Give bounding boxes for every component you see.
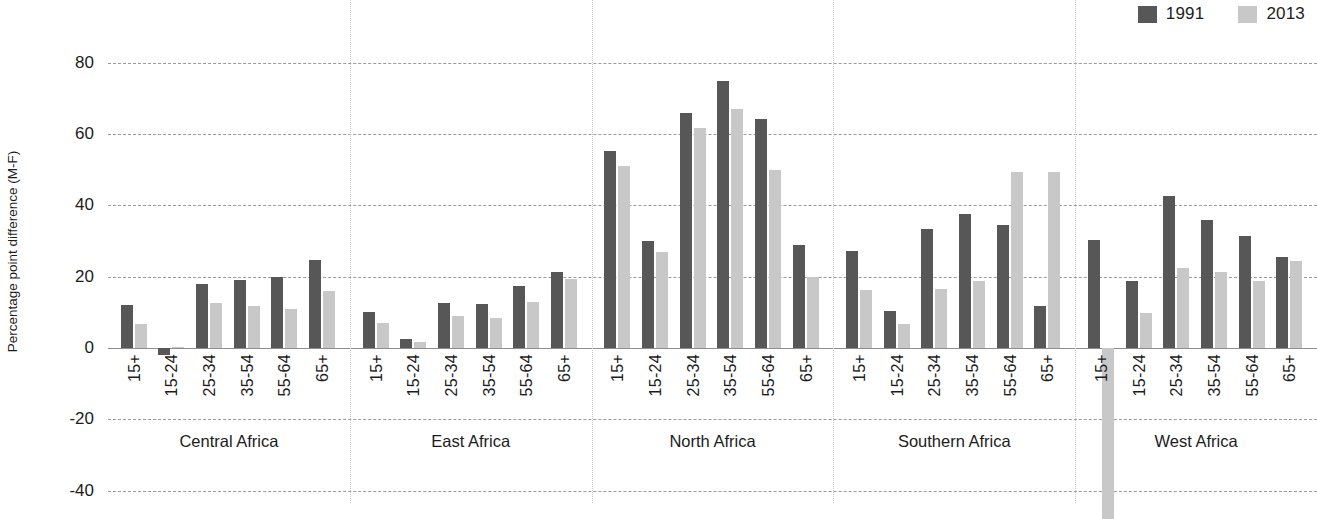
bar-category-25-34: 25-34 [433, 0, 471, 503]
bar-1991-15+ [121, 305, 133, 348]
y-tick-label: 40 [75, 195, 94, 215]
bar-1991-35-54 [1201, 220, 1213, 348]
bar-pair [603, 0, 633, 503]
bar-2013-65+ [1290, 261, 1302, 348]
bar-2013-55-64 [285, 309, 297, 348]
bar-2013-35-54 [1215, 272, 1227, 348]
x-tick-label: 25-34 [201, 354, 219, 396]
x-tick-label: 55-64 [760, 354, 778, 396]
bar-2013-25-34 [452, 316, 464, 348]
y-tick-label: 0 [85, 338, 94, 358]
bar-2013-15-24 [414, 342, 426, 348]
bar-group-central-africa: 15+15-2425-3435-5455-6465+Central Africa [108, 0, 350, 503]
x-tick-label: 15+ [851, 354, 869, 382]
bar-pair [437, 0, 467, 503]
bar-pair [308, 0, 338, 503]
bar-pair [1087, 0, 1117, 503]
bar-pair [195, 0, 225, 503]
bar-2013-55-64 [527, 302, 539, 348]
x-tick-label: 35-54 [964, 354, 982, 396]
bar-1991-65+ [551, 272, 563, 348]
bar-category-15-24: 15-24 [637, 0, 675, 503]
bar-category-15-24: 15-24 [1121, 0, 1159, 503]
bar-1991-15-24 [884, 311, 896, 348]
bar-1991-25-34 [196, 284, 208, 348]
x-tick-label: 65+ [1039, 354, 1057, 382]
x-tick-label: 15+ [609, 354, 627, 382]
bar-1991-15+ [604, 151, 616, 348]
bar-category-15+: 15+ [1083, 0, 1121, 503]
bar-2013-25-34 [210, 303, 222, 348]
bar-1991-15+ [1088, 240, 1100, 348]
y-axis-title-label: Percentage point difference (M-F) [6, 151, 21, 353]
bar-2013-65+ [807, 277, 819, 348]
bar-1991-35-54 [717, 81, 729, 348]
x-tick-label: 35-54 [239, 354, 257, 396]
category-track: 15+15-2425-3435-5455-6465+ [1075, 0, 1317, 503]
bar-pair [920, 0, 950, 503]
x-tick-label: 55-64 [1244, 354, 1262, 396]
bar-1991-65+ [309, 260, 321, 348]
y-tick-label: -40 [69, 481, 94, 501]
bar-groups: 15+15-2425-3435-5455-6465+Central Africa… [108, 0, 1317, 503]
x-tick-label: 15-24 [163, 354, 181, 396]
bar-category-55-64: 55-64 [267, 0, 305, 503]
bar-category-65+: 65+ [546, 0, 584, 503]
x-tick-label: 65+ [1281, 354, 1299, 382]
bar-pair [270, 0, 300, 503]
bar-1991-15+ [846, 251, 858, 348]
bar-2013-15-24 [172, 347, 184, 348]
bar-group-southern-africa: 15+15-2425-3435-5455-6465+Southern Afric… [833, 0, 1075, 503]
bar-category-15-24: 15-24 [154, 0, 192, 503]
category-track: 15+15-2425-3435-5455-6465+ [108, 0, 350, 503]
category-track: 15+15-2425-3435-5455-6465+ [833, 0, 1075, 503]
bar-pair [996, 0, 1026, 503]
bar-1991-35-54 [476, 304, 488, 348]
bar-1991-15-24 [400, 339, 412, 348]
x-tick-label: 25-34 [443, 354, 461, 396]
bar-category-35-54: 35-54 [713, 0, 751, 503]
bar-2013-15+ [377, 323, 389, 348]
x-tick-label: 35-54 [1206, 354, 1224, 396]
category-track: 15+15-2425-3435-5455-6465+ [350, 0, 592, 503]
group-label: West Africa [1075, 432, 1317, 451]
group-label: East Africa [350, 432, 592, 451]
x-tick-label: 15-24 [889, 354, 907, 396]
bar-category-35-54: 35-54 [954, 0, 992, 503]
bar-pair [716, 0, 746, 503]
bar-1991-15+ [363, 312, 375, 348]
x-tick-label: 55-64 [518, 354, 536, 396]
x-tick-label: 25-34 [926, 354, 944, 396]
x-tick-label: 55-64 [276, 354, 294, 396]
bar-category-55-64: 55-64 [750, 0, 788, 503]
bar-2013-55-64 [769, 170, 781, 348]
bar-pair [1125, 0, 1155, 503]
bar-1991-55-64 [1239, 236, 1251, 348]
bar-1991-65+ [793, 245, 805, 348]
bar-2013-35-54 [490, 318, 502, 348]
bar-pair [958, 0, 988, 503]
bar-2013-55-64 [1011, 172, 1023, 348]
group-label: Southern Africa [833, 432, 1075, 451]
bar-pair [1200, 0, 1230, 503]
bar-pair [120, 0, 150, 503]
bar-2013-55-64 [1253, 281, 1265, 348]
bar-category-55-64: 55-64 [508, 0, 546, 503]
category-track: 15+15-2425-3435-5455-6465+ [592, 0, 834, 503]
bar-2013-35-54 [973, 281, 985, 348]
x-tick-label: 15-24 [405, 354, 423, 396]
bar-pair [679, 0, 709, 503]
bar-category-15+: 15+ [600, 0, 638, 503]
group-label: Central Africa [108, 432, 350, 451]
bar-category-65+: 65+ [304, 0, 342, 503]
bar-category-55-64: 55-64 [1234, 0, 1272, 503]
y-tick-label: -20 [69, 409, 94, 429]
bar-2013-65+ [565, 279, 577, 348]
bar-2013-25-34 [694, 128, 706, 348]
bar-1991-25-34 [438, 303, 450, 348]
bar-pair [845, 0, 875, 503]
bar-1991-55-64 [513, 286, 525, 348]
bar-pair [883, 0, 913, 503]
bar-group-west-africa: 15+15-2425-3435-5455-6465+West Africa [1075, 0, 1317, 503]
